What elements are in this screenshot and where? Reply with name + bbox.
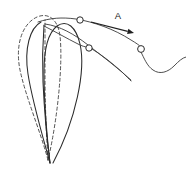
lower-trailing-curve [44,26,87,47]
label-a: A [115,10,122,21]
diagram-canvas: A [0,0,186,176]
node-loop-right-icon [138,46,145,53]
direction-arrow-head [127,29,134,34]
upper-trailing-curve [38,18,141,47]
dashed-petal-outer-outline [18,16,60,160]
solid-petal-outer-outline [44,23,82,163]
direction-arrow-shaft [91,22,128,31]
lower-trailing-curve-tail [92,49,131,81]
node-loop-middle-icon [86,45,92,51]
figure-container: A [0,0,186,176]
upper-trailing-curve-tail [141,52,186,73]
node-loop-top-icon [77,17,83,23]
